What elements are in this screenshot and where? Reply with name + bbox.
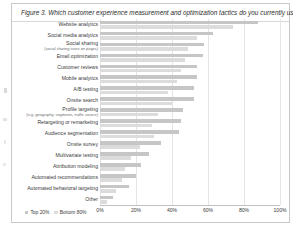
bar-top-20 bbox=[100, 119, 181, 123]
legend-swatch-icon bbox=[54, 211, 57, 214]
value-axis-ticks: 0%20%40%60%80%100% bbox=[100, 207, 280, 217]
category-label: Audience segmentation bbox=[14, 131, 98, 137]
axis-tick-label: 80% bbox=[239, 207, 249, 213]
legend-item: Bottom 80% bbox=[54, 210, 86, 215]
category-sublabel: (e.g. geography, segments, traffic sourc… bbox=[14, 113, 98, 117]
plot-area bbox=[100, 19, 280, 205]
gridline bbox=[244, 19, 245, 205]
axis-tick-label: 0% bbox=[96, 207, 103, 213]
bar-bottom-80 bbox=[100, 113, 158, 117]
bar-top-20 bbox=[100, 54, 203, 58]
legend-item: Top 20% bbox=[25, 210, 49, 215]
bar-bottom-80 bbox=[100, 58, 185, 62]
bar-bottom-80 bbox=[100, 124, 152, 128]
legend-swatch-icon bbox=[25, 211, 28, 214]
bar-top-20 bbox=[100, 163, 141, 167]
bar-bottom-80 bbox=[100, 200, 107, 204]
bar-bottom-80 bbox=[100, 145, 140, 149]
category-label: Automated behavioral targeting bbox=[14, 186, 98, 192]
axis-tick-label: 20% bbox=[131, 207, 141, 213]
bar-bottom-80 bbox=[100, 156, 131, 160]
bar-bottom-80 bbox=[100, 47, 188, 51]
bar-bottom-80 bbox=[100, 102, 172, 106]
axis-tick-label: 40% bbox=[167, 207, 177, 213]
bar-top-20 bbox=[100, 108, 183, 112]
category-label: Retargeting or remarketing bbox=[14, 120, 98, 126]
bar-top-20 bbox=[100, 185, 129, 189]
category-label: Email optimization bbox=[14, 54, 98, 60]
gridline bbox=[280, 19, 281, 205]
bar-bottom-80 bbox=[100, 167, 125, 171]
category-label: Automated recommendations bbox=[14, 175, 98, 181]
chart-legend: Top 20%Bottom 80% bbox=[25, 210, 86, 215]
bar-top-20 bbox=[100, 141, 161, 145]
bar-bottom-80 bbox=[100, 25, 233, 29]
category-axis-line bbox=[100, 205, 280, 206]
category-label: Profile targeting(e.g. geography, segmen… bbox=[14, 107, 98, 117]
legend-label: Top 20% bbox=[30, 210, 49, 215]
category-label: A/B testing bbox=[14, 87, 98, 93]
bar-bottom-80 bbox=[100, 69, 181, 73]
category-label: Social media analytics bbox=[14, 33, 98, 39]
bar-top-20 bbox=[100, 152, 149, 156]
category-axis-labels: Website analyticsSocial media analyticsS… bbox=[12, 19, 98, 205]
bar-bottom-80 bbox=[100, 36, 197, 40]
bar-bottom-80 bbox=[100, 135, 154, 139]
bar-top-20 bbox=[100, 21, 258, 25]
bar-bottom-80 bbox=[100, 189, 116, 193]
bar-top-20 bbox=[100, 196, 113, 200]
category-label: Mobile analytics bbox=[14, 76, 98, 82]
bar-top-20 bbox=[100, 75, 197, 79]
figure-frame: Figure 3. Which customer experience meas… bbox=[11, 3, 290, 223]
category-label: Multivariate testing bbox=[14, 153, 98, 159]
category-label: Social sharing(social sharing icons on p… bbox=[14, 41, 98, 51]
bar-top-20 bbox=[100, 43, 204, 47]
category-label: Website analytics bbox=[14, 22, 98, 28]
bar-top-20 bbox=[100, 86, 194, 90]
bar-bottom-80 bbox=[100, 178, 122, 182]
bar-top-20 bbox=[100, 97, 194, 101]
gridline bbox=[208, 19, 209, 205]
figure-title: Figure 3. Which customer experience meas… bbox=[21, 9, 283, 17]
category-label: Customer reviews bbox=[14, 65, 98, 71]
bar-bottom-80 bbox=[100, 91, 168, 95]
category-sublabel: (social sharing icons on pages) bbox=[14, 47, 98, 51]
category-label: Attribution modeling bbox=[14, 164, 98, 170]
axis-tick-label: 100% bbox=[273, 207, 286, 213]
axis-tick-label: 60% bbox=[203, 207, 213, 213]
bar-bottom-80 bbox=[100, 80, 177, 84]
legend-label: Bottom 80% bbox=[60, 210, 87, 215]
bar-top-20 bbox=[100, 174, 136, 178]
category-label: Onsite search bbox=[14, 98, 98, 104]
bar-top-20 bbox=[100, 32, 213, 36]
category-label: Other bbox=[14, 197, 98, 203]
bar-top-20 bbox=[100, 130, 179, 134]
bar-top-20 bbox=[100, 65, 197, 69]
category-label: Onsite survey bbox=[14, 142, 98, 148]
